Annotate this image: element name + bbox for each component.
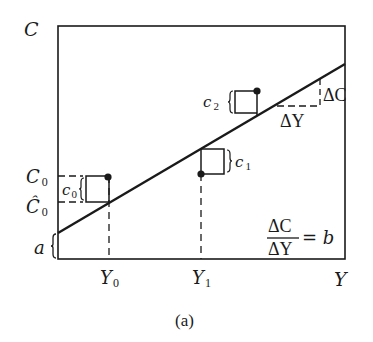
brace-c2 [228,91,233,113]
y1-label: Y1 [192,267,211,290]
delta-c-label: ΔC [323,85,347,105]
equation-denominator: ΔY [268,239,293,259]
residual-box-c0 [86,176,109,202]
data-point-1 [197,170,204,177]
y0-label: Y0 [100,267,119,290]
residual-box-c1 [201,149,224,174]
figure-caption: (a) [175,311,194,330]
equation-rhs: = b [302,227,334,248]
residual-label-c0: c0 [62,181,77,200]
intercept-label: a [34,237,45,258]
slope-equation: ΔC ΔY = b [267,216,334,259]
x-axis-label: Y [334,268,349,290]
delta-y-label: ΔY [280,111,305,131]
equation-numerator: ΔC [268,216,292,236]
brace-c1 [227,150,232,172]
data-point-2 [253,87,260,94]
brace-c0 [79,178,84,200]
residual-label-c1: c1 [235,153,251,172]
consumption-function-diagram: C Y a C0 Ĉ0 c0 c1 c2 ΔC ΔY Y0 Y1 ΔC ΔY =… [0,0,373,342]
data-point-0 [104,173,111,180]
c0-hat-label: Ĉ0 [26,195,48,219]
brace-intercept [51,234,56,258]
c0-label: C0 [26,166,48,189]
residual-box-c2 [235,91,257,113]
y-axis-label: C [24,18,39,40]
residual-label-c2: c2 [203,93,219,112]
